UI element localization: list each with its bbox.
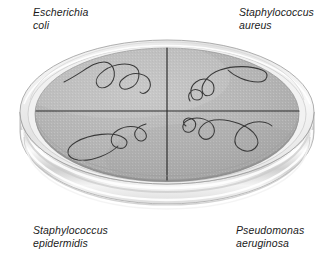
- label-staphylococcus-aureus: Staphylococcus aureus: [239, 6, 314, 32]
- label-pseudomonas-aeruginosa: Pseudomonas aeruginosa: [236, 224, 304, 250]
- label-staphylococcus-epidermidis: Staphylococcus epidermidis: [33, 224, 108, 250]
- label-escherichia-coli: Escherichia coli: [33, 6, 88, 32]
- petri-dish-figure: Escherichia coli Staphylococcus aureus S…: [0, 0, 335, 269]
